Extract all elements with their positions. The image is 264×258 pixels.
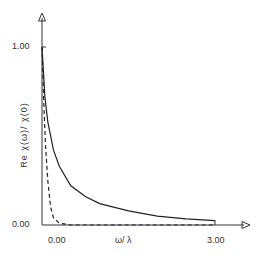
- dashed-series-line: [42, 47, 215, 225]
- solid-series-line: [42, 47, 215, 221]
- x-tick-label-right: 3.00: [207, 235, 225, 245]
- chart-plot-area: [0, 0, 264, 258]
- y-axis-label: Re χ(ω)/ χ(0): [19, 85, 29, 185]
- x-axis-label: ω/ λ: [115, 235, 132, 245]
- x-tick-label-left: 0.00: [48, 235, 66, 245]
- y-tick-label-top: 1.00: [12, 41, 30, 51]
- y-tick-label-bottom: 0.00: [12, 219, 30, 229]
